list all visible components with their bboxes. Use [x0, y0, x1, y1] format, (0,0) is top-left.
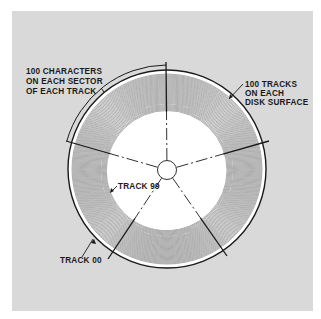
- sector-note-line-2: ON EACH SECTOR: [26, 77, 103, 86]
- tracks-note-line-3: DISK SURFACE: [245, 98, 309, 107]
- track-99-label: TRACK 99: [118, 182, 160, 191]
- spindle-circle: [158, 161, 177, 180]
- sector-note-line-1: 100 CHARACTERS: [26, 67, 102, 76]
- leader-track-00: [82, 239, 93, 257]
- disk-diagram: 100 CHARACTERS ON EACH SECTOR OF EACH TR…: [0, 0, 321, 319]
- tracks-note-line-1: 100 TRACKS: [245, 80, 297, 89]
- sector-arc-tick: [101, 88, 104, 92]
- sector-divider-line: [166, 62, 167, 112]
- sector-note-line-3: OF EACH TRACK: [26, 87, 96, 96]
- track-00-label: TRACK 00: [60, 256, 102, 265]
- tracks-note-line-2: ON EACH: [245, 89, 284, 98]
